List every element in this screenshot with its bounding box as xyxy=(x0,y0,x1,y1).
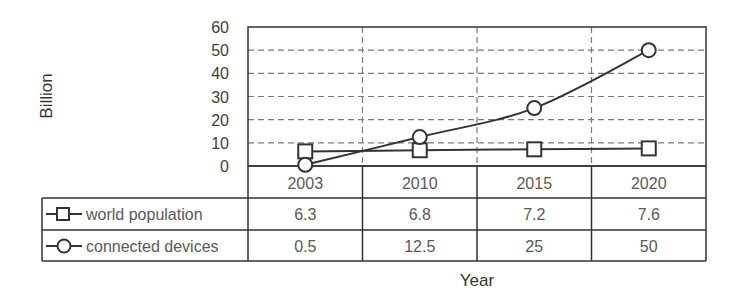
square-marker-icon xyxy=(298,144,312,158)
circle-marker-icon xyxy=(642,43,656,57)
square-marker-icon xyxy=(527,142,541,156)
y-tick-label: 0 xyxy=(220,158,229,175)
table-cell-value: 50 xyxy=(640,238,658,255)
y-tick-label: 20 xyxy=(211,112,229,129)
circle-marker-icon xyxy=(527,101,541,115)
table-cell-value: 7.6 xyxy=(638,206,660,223)
y-axis-title: Billion xyxy=(37,73,56,118)
legend-label: connected devices xyxy=(86,238,219,255)
y-tick-label: 50 xyxy=(211,42,229,59)
x-category-label: 2015 xyxy=(516,175,552,192)
y-tick-label: 10 xyxy=(211,135,229,152)
circle-marker-icon xyxy=(298,158,312,172)
y-tick-label: 30 xyxy=(211,89,229,106)
square-marker-icon xyxy=(642,141,656,155)
y-tick-label: 40 xyxy=(211,65,229,82)
square-marker-icon xyxy=(413,143,427,157)
legend-square-marker-icon xyxy=(57,208,69,220)
x-category-label: 2020 xyxy=(631,175,667,192)
table-cell-value: 6.3 xyxy=(294,206,316,223)
legend-circle-marker-icon xyxy=(58,240,71,253)
table-cell-value: 7.2 xyxy=(523,206,545,223)
table-cell-value: 6.8 xyxy=(409,206,431,223)
y-axis-ticks: 0102030405060 xyxy=(211,19,229,175)
circle-marker-icon xyxy=(413,130,427,144)
x-category-label: 2010 xyxy=(402,175,438,192)
data-table: 2003201020152020world population6.36.87.… xyxy=(42,166,706,261)
x-category-label: 2003 xyxy=(287,175,323,192)
table-cell-value: 0.5 xyxy=(294,238,316,255)
table-cell-value: 12.5 xyxy=(404,238,435,255)
table-cell-value: 25 xyxy=(525,238,543,255)
x-axis-title: Year xyxy=(460,271,495,290)
gridlines xyxy=(248,27,706,166)
line-chart: 0102030405060 2003201020152020world popu… xyxy=(0,0,742,299)
y-tick-label: 60 xyxy=(211,19,229,36)
legend-label: world population xyxy=(85,206,203,223)
